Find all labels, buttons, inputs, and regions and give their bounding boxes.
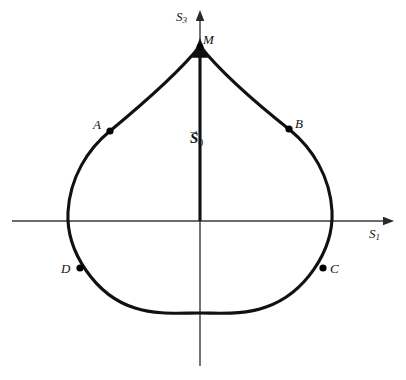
point-marker-B	[285, 125, 292, 132]
diagram-svg	[0, 0, 406, 380]
s0-vector-subscript: 0	[198, 137, 203, 148]
s0-vector-label: →S0	[190, 131, 203, 148]
point-marker-A	[106, 127, 113, 134]
s3-axis-label: S3	[176, 10, 187, 25]
point-label-M: M	[203, 33, 214, 46]
point-label-B: B	[295, 117, 303, 130]
figure-canvas: S3 S1 →S0 M A B C D	[0, 0, 406, 380]
point-label-C: C	[330, 262, 339, 275]
s1-axis-subscript: 1	[376, 232, 381, 242]
point-marker-C	[319, 264, 326, 271]
point-label-A: A	[93, 118, 101, 131]
point-label-D: D	[61, 262, 70, 275]
point-marker-D	[76, 264, 83, 271]
s1-axis-label: S1	[369, 227, 380, 242]
vector-arrow-accent-icon: →	[188, 124, 200, 136]
s3-axis-subscript: 3	[183, 15, 188, 25]
s0-vector-symbol: →S	[190, 131, 198, 146]
